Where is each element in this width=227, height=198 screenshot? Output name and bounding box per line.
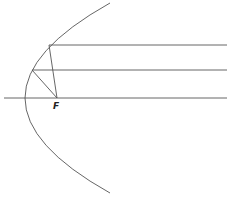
focus-label: F <box>53 101 60 111</box>
parabola-reflection-diagram: F <box>0 0 227 198</box>
